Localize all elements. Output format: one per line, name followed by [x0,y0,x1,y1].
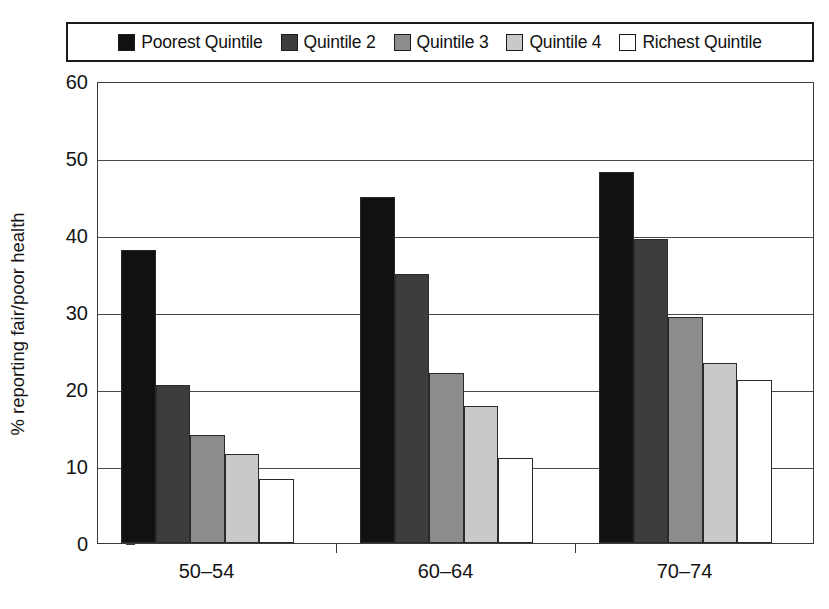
legend-swatch-icon [118,34,135,51]
bar [599,172,634,543]
legend-item-label: Quintile 2 [304,32,376,53]
legend-item: Quintile 4 [506,32,601,53]
bar [429,373,464,543]
bar [464,406,499,543]
gridline [98,314,813,315]
y-tick-label: 50 [44,148,88,171]
legend-swatch-icon [281,34,298,51]
bar [190,435,225,543]
x-tick-mark [336,544,337,553]
chart-legend: Poorest QuintileQuintile 2Quintile 3Quin… [66,22,814,62]
legend-swatch-icon [506,34,523,51]
bar [360,197,395,544]
x-tick-label: 50–54 [179,560,235,583]
y-tick-label: 20 [44,379,88,402]
gridline [98,160,813,161]
gridline [98,237,813,238]
bar [225,454,260,543]
legend-swatch-icon [619,34,636,51]
bar [395,274,430,544]
bar [737,380,772,543]
bar [259,479,294,543]
legend-item-label: Richest Quintile [642,32,761,53]
legend-item: Quintile 2 [281,32,376,53]
legend-item-label: Quintile 4 [529,32,601,53]
legend-item-label: Quintile 3 [417,32,489,53]
x-tick-label: 70–74 [657,560,713,583]
bar [703,363,738,543]
y-tick-label: 10 [44,456,88,479]
y-tick-label: 40 [44,225,88,248]
plot-area [97,82,814,544]
legend-item: Quintile 3 [394,32,489,53]
bar [668,317,703,543]
x-tick-mark [575,544,576,553]
y-axis-ticks: 0102030405060 [36,0,88,609]
y-tick-label: 60 [44,71,88,94]
legend-item: Poorest Quintile [118,32,262,53]
y-axis-label: % reporting fair/poor health [7,134,29,514]
y-tick-label: 0 [44,533,88,556]
y-tick-mark [126,544,135,545]
bar [498,458,533,543]
x-tick-label: 60–64 [418,560,474,583]
bar [121,250,156,543]
bar-chart-figure: Poorest QuintileQuintile 2Quintile 3Quin… [0,0,829,609]
legend-item: Richest Quintile [619,32,761,53]
bar [634,239,669,543]
legend-swatch-icon [394,34,411,51]
y-tick-label: 30 [44,302,88,325]
bar [156,385,191,543]
legend-item-label: Poorest Quintile [141,32,262,53]
